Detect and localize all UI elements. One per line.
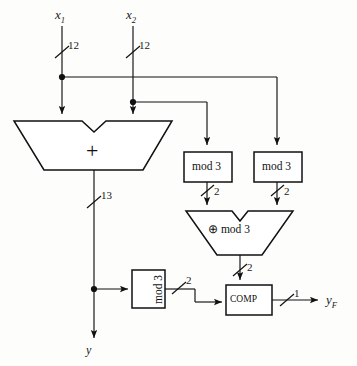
circuit-wiring-layer [0, 0, 357, 366]
bus-width-mod3-bottom-out: 2 [186, 275, 192, 286]
output-label-yf: yF [326, 293, 337, 309]
junction-dot-x2 [130, 99, 136, 105]
bus-tick-mod3-bottom-out [172, 282, 186, 294]
circuit-diagram: x1 x2 12 12 + 13 mod 3 mod 3 2 2 ⊕ mod 3… [0, 0, 357, 366]
junction-dot-x1 [59, 74, 65, 80]
bus-width-x1: 12 [68, 40, 79, 51]
bus-width-adder-output: 13 [101, 190, 112, 201]
bus-width-mod3-left-out: 2 [214, 186, 220, 197]
bus-width-x2: 12 [139, 40, 150, 51]
input-label-x1: x1 [55, 8, 65, 24]
bus-width-mod3-right-out: 2 [284, 186, 290, 197]
comp-label: COMP [230, 295, 257, 305]
mod3-right-label: mod 3 [262, 161, 291, 173]
mod3-bottom-label: mod 3 [153, 275, 165, 304]
adder-label: + [86, 140, 98, 162]
xor-mod3-label: ⊕ mod 3 [208, 224, 250, 236]
bus-width-comp-out: 1 [294, 288, 300, 299]
bus-width-xor-mod3-out: 2 [247, 262, 253, 273]
output-label-y: y [86, 344, 91, 356]
mod3-left-label: mod 3 [192, 161, 221, 173]
input-label-x2: x2 [126, 8, 136, 24]
